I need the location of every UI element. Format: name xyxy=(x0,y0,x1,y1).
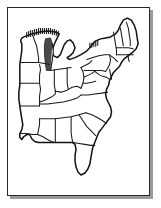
screenshot-root: Eastern United States xyxy=(0,0,161,208)
eastern-us-map xyxy=(8,8,149,195)
map-frame: Eastern United States xyxy=(7,7,150,196)
